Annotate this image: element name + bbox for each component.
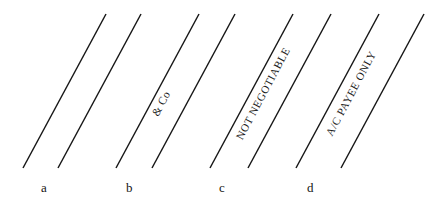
- crossing-caption-b: & Co: [149, 89, 172, 118]
- crossing-group-d: A/C PAYEE ONLY: [296, 14, 424, 168]
- panel-label-b: b: [126, 181, 133, 194]
- crossing-line-a1: [23, 14, 106, 168]
- crossing-line-d1: [296, 14, 379, 168]
- crossing-group-c: NOT NEGOTIABLE: [210, 14, 331, 168]
- crossing-group-b: & Co: [116, 14, 235, 168]
- cheque-crossing-figure: & Co NOT NEGOTIABLE A/C PAYEE ONLY a b c…: [0, 0, 438, 215]
- crossing-caption-d: A/C PAYEE ONLY: [323, 49, 378, 138]
- panel-label-c: c: [219, 181, 225, 194]
- crossing-caption-c: NOT NEGOTIABLE: [233, 45, 292, 141]
- panel-label-a: a: [41, 181, 47, 194]
- crossing-group-a: [23, 14, 141, 168]
- panel-label-d: d: [307, 181, 314, 194]
